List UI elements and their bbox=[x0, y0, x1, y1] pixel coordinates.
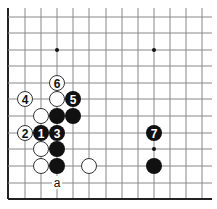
star-point bbox=[152, 147, 156, 151]
move-number-label: 3 bbox=[54, 127, 61, 141]
black-stone-icon bbox=[146, 158, 162, 174]
move-number-label: 1 bbox=[38, 127, 45, 141]
board-marks: a bbox=[52, 176, 62, 190]
black-stone bbox=[49, 108, 65, 124]
black-stone: 1 bbox=[33, 125, 49, 141]
white-stone-icon bbox=[34, 159, 49, 174]
go-board: a 6452137 bbox=[0, 0, 217, 209]
black-stone bbox=[146, 158, 162, 174]
black-stone-icon bbox=[49, 141, 65, 157]
move-number-label: 6 bbox=[54, 77, 61, 91]
move-number-label: 4 bbox=[22, 93, 29, 107]
white-stone bbox=[34, 142, 49, 157]
black-stone: 5 bbox=[65, 91, 81, 107]
black-stone-icon bbox=[49, 108, 65, 124]
white-stone: 2 bbox=[18, 126, 33, 141]
black-stone: 7 bbox=[146, 125, 162, 141]
black-stone bbox=[49, 158, 65, 174]
move-number-label: 2 bbox=[22, 127, 29, 141]
white-stone bbox=[82, 159, 97, 174]
white-stone-icon bbox=[50, 92, 65, 107]
move-number-label: 5 bbox=[70, 93, 77, 107]
white-stone-icon bbox=[34, 142, 49, 157]
stones: 6452137 bbox=[18, 76, 163, 175]
white-stone-icon bbox=[34, 109, 49, 124]
board-mark-label: a bbox=[54, 176, 61, 190]
white-stone bbox=[34, 109, 49, 124]
white-stone-icon bbox=[82, 159, 97, 174]
white-stone: 6 bbox=[50, 76, 65, 91]
move-number-label: 7 bbox=[151, 127, 158, 141]
star-point bbox=[55, 48, 59, 52]
black-stone: 3 bbox=[49, 125, 65, 141]
white-stone bbox=[50, 92, 65, 107]
black-stone bbox=[65, 108, 81, 124]
black-stone bbox=[49, 141, 65, 157]
black-stone-icon bbox=[65, 108, 81, 124]
white-stone: 4 bbox=[18, 92, 33, 107]
black-stone-icon bbox=[49, 158, 65, 174]
white-stone bbox=[34, 159, 49, 174]
go-board-diagram: a 6452137 bbox=[0, 0, 217, 209]
star-point bbox=[152, 48, 156, 52]
